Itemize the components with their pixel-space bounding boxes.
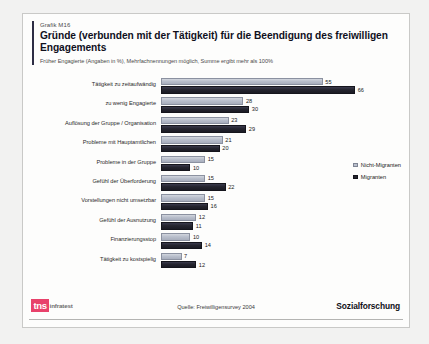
source-note: Quelle: Freiwilligensurvey 2004 <box>177 304 255 310</box>
category-label: Tätigkeit zu zeitaufwändig <box>27 80 156 88</box>
bar-nicht-migranten <box>161 214 196 221</box>
bar-migranten <box>161 145 220 152</box>
category-label: Gefühl der Ausnutzung <box>27 216 156 224</box>
bar-value-label: 30 <box>252 105 258 113</box>
bar-nicht-migranten <box>161 97 243 104</box>
bar-value-label: 15 <box>208 174 214 182</box>
bar-wrapper: 23 <box>161 117 407 124</box>
bar-migranten <box>161 183 226 190</box>
bar-wrapper: 11 <box>161 222 407 229</box>
bar-group: 712 <box>161 253 407 270</box>
page-subtitle: Früher Engagierte (Angaben in %), Mehrfa… <box>40 57 400 65</box>
bar-value-label: 15 <box>208 155 214 163</box>
bar-value-label: 7 <box>184 252 187 260</box>
bar-value-label: 22 <box>228 183 234 191</box>
bar-wrapper: 22 <box>161 183 407 190</box>
bar-wrapper: 30 <box>161 106 407 113</box>
graphic-number: Grafik M16 <box>40 21 400 29</box>
bar-nicht-migranten <box>161 175 205 182</box>
bar-nicht-migranten <box>161 136 223 143</box>
bar-wrapper: 10 <box>161 233 407 240</box>
category-label: Probleme in der Gruppe <box>27 158 156 166</box>
bar-nicht-migranten <box>161 156 205 163</box>
bar-group: 2329 <box>161 117 407 134</box>
scanned-page: Grafik M16 Gründe (verbunden mit der Tät… <box>0 0 429 344</box>
legend-label: Nicht-Migranten <box>361 160 401 170</box>
chart-legend: Nicht-MigrantenMigranten <box>353 160 401 184</box>
legend-item[interactable]: Migranten <box>353 172 401 182</box>
bar-value-label: 15 <box>208 194 214 202</box>
bar-wrapper: 55 <box>161 78 407 85</box>
category-label: Gefühl der Überforderung <box>27 177 156 185</box>
bar-nicht-migranten <box>161 78 323 85</box>
bar-wrapper: 21 <box>161 136 407 143</box>
category-label: zu wenig Engagierte <box>27 99 156 107</box>
bar-value-label: 23 <box>231 116 237 124</box>
bar-migranten <box>161 242 202 249</box>
slide-header: Grafik M16 Gründe (verbunden mit der Tät… <box>32 21 400 65</box>
bar-group: 1014 <box>161 233 407 250</box>
bar-nicht-migranten <box>161 233 190 240</box>
bar-value-label: 10 <box>193 164 199 172</box>
bar-group: 2120 <box>161 136 407 153</box>
bar-wrapper: 14 <box>161 242 407 249</box>
bar-value-label: 29 <box>249 125 255 133</box>
legend-swatch-icon <box>353 175 358 180</box>
bar-value-label: 16 <box>211 202 217 210</box>
bar-migranten <box>161 261 196 268</box>
bar-wrapper: 15 <box>161 194 407 201</box>
bar-nicht-migranten <box>161 253 182 260</box>
chart-slide: Grafik M16 Gründe (verbunden mit der Tät… <box>22 13 410 328</box>
bar-nicht-migranten <box>161 117 229 124</box>
chart-row: Probleme in der Gruppe1510 <box>27 155 407 174</box>
bar-wrapper: 29 <box>161 125 407 132</box>
bar-value-label: 12 <box>199 213 205 221</box>
bar-wrapper: 12 <box>161 261 407 268</box>
bar-group: 1211 <box>161 214 407 231</box>
bar-wrapper: 20 <box>161 145 407 152</box>
legend-swatch-icon <box>353 163 358 168</box>
logo-mark: tns <box>31 299 49 312</box>
legend-label: Migranten <box>361 172 386 182</box>
chart-row: Gefühl der Ausnutzung1211 <box>27 213 407 232</box>
chart-row: Finanzierungsstop1014 <box>27 232 407 251</box>
category-label: Probleme mit Hauptamtlichen <box>27 138 156 146</box>
bar-wrapper: 66 <box>161 86 407 93</box>
legend-item[interactable]: Nicht-Migranten <box>353 160 401 170</box>
bar-migranten <box>161 203 208 210</box>
bar-group: 5566 <box>161 78 407 95</box>
bar-group: 1516 <box>161 194 407 211</box>
bar-value-label: 12 <box>199 261 205 269</box>
bar-value-label: 55 <box>325 78 331 86</box>
category-label: Vorstellungen nicht umsetzbar <box>27 196 156 204</box>
footer-divider <box>29 319 403 320</box>
bar-value-label: 11 <box>196 222 202 230</box>
bar-wrapper: 7 <box>161 253 407 260</box>
bar-value-label: 21 <box>225 136 231 144</box>
category-label: Tätigkeit zu kostspielig <box>27 255 156 263</box>
logo-wordmark: infratest <box>50 302 73 309</box>
chart-row: Vorstellungen nicht umsetzbar1516 <box>27 193 407 212</box>
bar-group: 2830 <box>161 97 407 114</box>
category-label: Auflösung der Gruppe / Organisation <box>27 119 156 127</box>
bar-value-label: 28 <box>246 97 252 105</box>
chart-row: Probleme mit Hauptamtlichen2120 <box>27 135 407 154</box>
bar-migranten <box>161 125 246 132</box>
bar-value-label: 14 <box>205 241 211 249</box>
chart-row: zu wenig Engagierte2830 <box>27 96 407 115</box>
bar-migranten <box>161 164 190 171</box>
bar-wrapper: 12 <box>161 214 407 221</box>
bar-migranten <box>161 222 193 229</box>
bar-value-label: 20 <box>222 144 228 152</box>
category-label: Finanzierungsstop <box>27 235 156 243</box>
chart-row: Tätigkeit zu kostspielig712 <box>27 252 407 271</box>
slide-footer: tns infratest Quelle: Freiwilligensurvey… <box>23 297 409 319</box>
chart-row: Auflösung der Gruppe / Organisation2329 <box>27 116 407 135</box>
tns-infratest-logo: tns infratest <box>31 299 73 312</box>
bar-migranten <box>161 86 355 93</box>
page-title: Gründe (verbunden mit der Tätigkeit) für… <box>40 30 400 55</box>
chart-row: Tätigkeit zu zeitaufwändig5566 <box>27 77 407 96</box>
bar-wrapper: 16 <box>161 203 407 210</box>
bar-value-label: 10 <box>193 233 199 241</box>
bar-wrapper: 28 <box>161 97 407 104</box>
